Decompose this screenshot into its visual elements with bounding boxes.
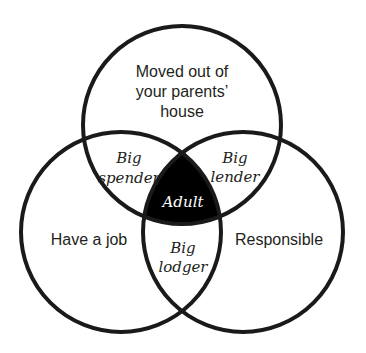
- label-big-lodger-line-1: Big: [169, 239, 195, 257]
- label-big-spender-line-1: Big: [115, 149, 141, 167]
- label-big-lodger-line-2: lodger: [158, 258, 208, 276]
- label-moved-out-line-2: your parents’: [136, 83, 229, 100]
- venn-diagram: Moved out of your parents’ house Have a …: [0, 0, 366, 353]
- label-moved-out-line-1: Moved out of: [136, 63, 229, 80]
- label-big-lodger: Big lodger: [158, 239, 208, 276]
- label-big-spender: Big spender: [98, 149, 160, 187]
- label-big-lender: Big lender: [211, 149, 261, 186]
- label-have-a-job: Have a job: [51, 231, 128, 248]
- label-big-spender-line-2: spender: [98, 169, 160, 187]
- label-adult: Adult: [161, 193, 205, 211]
- label-moved-out-line-3: house: [160, 103, 204, 120]
- label-moved-out: Moved out of your parents’ house: [136, 63, 229, 120]
- label-big-lender-line-1: Big: [221, 149, 247, 167]
- label-responsible: Responsible: [235, 231, 323, 248]
- label-big-lender-line-2: lender: [211, 168, 261, 186]
